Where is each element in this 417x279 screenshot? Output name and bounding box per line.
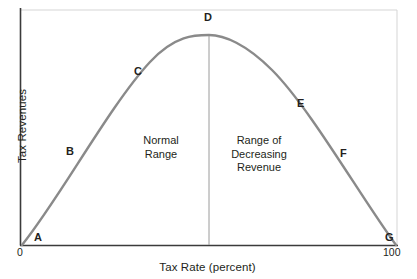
chart-canvas [0,0,417,279]
curve-point-label-b: B [66,146,74,157]
curve-point-label-e: E [297,98,304,109]
x-tick-label-0: 0 [17,246,23,258]
curve-point-label-f: F [340,148,347,159]
curve-point-label-c: C [134,66,142,77]
x-tick-label-100: 100 [383,246,401,258]
annotation-range-of-decreasing-revenue: Range of Decreasing Revenue [213,134,305,175]
laffer-curve-figure: Tax Revenues Tax Rate (percent) 0 100 No… [0,0,417,279]
curve-point-label-g: G [385,232,394,243]
y-axis-title: Tax Revenues [16,36,28,216]
curve-point-label-d: D [204,12,212,23]
annotation-normal-range: Normal Range [121,134,201,161]
x-axis-title: Tax Rate (percent) [20,261,395,273]
curve-point-label-a: A [34,232,42,243]
